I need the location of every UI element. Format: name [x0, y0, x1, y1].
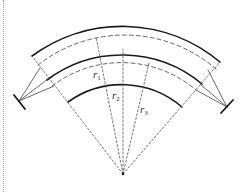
diagram-canvas: r1 r2 r3	[0, 0, 247, 192]
outer-dashed-arc	[38, 35, 216, 69]
right-support-lines	[196, 70, 227, 107]
label-r1: r1	[93, 68, 101, 82]
radial-lines	[32, 37, 220, 174]
arc-diagram: r1 r2 r3	[0, 0, 247, 192]
outer-solid-arc	[32, 26, 220, 62]
label-r3: r3	[140, 103, 148, 117]
left-support-bar	[14, 95, 25, 109]
radial-r3	[123, 63, 149, 174]
middle-solid-arc	[47, 55, 202, 84]
inner-solid-arc	[68, 85, 182, 107]
radial-left-edge	[32, 56, 123, 174]
center-point	[122, 173, 125, 176]
radial-right-edge	[123, 62, 220, 174]
left-support-lines	[19, 68, 54, 101]
label-r2: r2	[112, 89, 120, 103]
right-support-bar	[221, 100, 233, 113]
